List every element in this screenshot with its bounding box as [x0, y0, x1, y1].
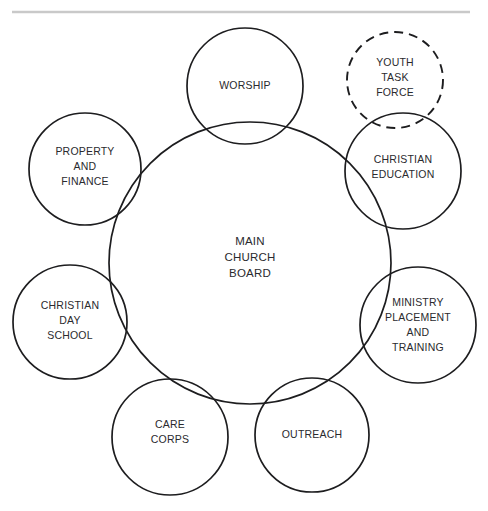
node-label-care-corps: CARECORPS	[151, 417, 189, 444]
node-care-corps[interactable]: CARECORPS	[112, 379, 228, 495]
node-label-line: SCHOOL	[47, 329, 93, 341]
node-label-youth-task-force: YOUTHTASKFORCE	[376, 56, 414, 98]
node-label-line: PLACEMENT	[385, 310, 451, 322]
node-label-line: BOARD	[229, 267, 271, 279]
node-label-worship: WORSHIP	[219, 79, 271, 91]
node-label-line: CHURCH	[224, 251, 275, 263]
node-christian-education[interactable]: CHRISTIANEDUCATION	[345, 113, 461, 229]
node-label-line: FINANCE	[61, 175, 109, 187]
node-label-line: WORSHIP	[219, 79, 271, 91]
node-label-property-and-finance: PROPERTYANDFINANCE	[55, 145, 114, 187]
node-label-line: CORPS	[151, 432, 189, 444]
node-label-line: EDUCATION	[372, 167, 435, 179]
node-label-line: MAIN	[235, 235, 265, 247]
diagram-canvas: WORSHIPYOUTHTASKFORCECHRISTIANEDUCATIONM…	[0, 0, 488, 511]
node-property-and-finance[interactable]: PROPERTYANDFINANCE	[29, 113, 141, 225]
node-label-line: MINISTRY	[392, 295, 444, 307]
node-label-line: PROPERTY	[55, 145, 114, 157]
node-label-line: TASK	[381, 71, 408, 83]
node-label-christian-education: CHRISTIANEDUCATION	[372, 152, 435, 179]
node-label-line: FORCE	[376, 86, 414, 98]
node-outreach[interactable]: OUTREACH	[255, 378, 369, 492]
node-label-main-church-board: MAINCHURCHBOARD	[224, 235, 275, 279]
node-label-line: CHRISTIAN	[374, 152, 432, 164]
node-label-line: AND	[407, 325, 430, 337]
node-label-line: AND	[74, 160, 97, 172]
node-label-line: CARE	[155, 417, 185, 429]
church-board-structure-diagram: WORSHIPYOUTHTASKFORCECHRISTIANEDUCATIONM…	[0, 0, 488, 511]
node-label-christian-day-school: CHRISTIANDAYSCHOOL	[41, 299, 99, 341]
node-label-line: OUTREACH	[282, 428, 343, 440]
node-label-line: YOUTH	[376, 56, 414, 68]
node-main-church-board[interactable]: MAINCHURCHBOARD	[109, 122, 391, 404]
node-label-ministry-placement-and-training: MINISTRYPLACEMENTANDTRAINING	[385, 295, 451, 352]
node-label-line: TRAINING	[392, 340, 444, 352]
center-node-group: MAINCHURCHBOARD	[109, 122, 391, 404]
node-label-line: DAY	[59, 314, 80, 326]
node-label-outreach: OUTREACH	[282, 428, 343, 440]
node-label-line: CHRISTIAN	[41, 299, 99, 311]
